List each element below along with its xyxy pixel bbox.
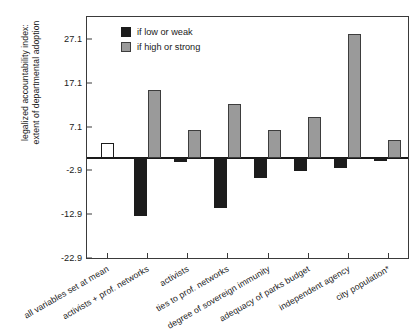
legend-label-high-strong: if high or strong [137, 42, 200, 52]
bar-low-weak-7 [374, 158, 387, 161]
legend-swatch-high-strong [121, 42, 131, 52]
y-tick-mark [87, 258, 92, 259]
y-tick-mark [87, 214, 92, 215]
y-tick-label: 27.1 [64, 34, 87, 44]
y-tick-label: -2.9 [66, 165, 87, 175]
x-tick-mark [107, 253, 108, 258]
x-tick-mark [388, 253, 389, 258]
bar-high-strong-7 [388, 140, 401, 158]
x-tick-mark [227, 253, 228, 258]
y-tick-mark [87, 126, 92, 127]
bar-high-strong-2 [188, 130, 201, 158]
y-tick-mark [87, 38, 92, 39]
bar-high-strong-6 [348, 34, 361, 158]
x-tick-mark [147, 253, 148, 258]
bar-high-strong-3 [228, 104, 241, 158]
x-tick-mark [268, 253, 269, 258]
y-tick-mark [87, 170, 92, 171]
y-tick-mark [87, 82, 92, 83]
x-tick-mark [308, 253, 309, 258]
legend-label-low-weak: if low or weak [137, 27, 193, 37]
bar-high-strong-4 [268, 130, 281, 158]
bar-baseline-0 [101, 143, 114, 158]
chart-legend: if low or weak if high or strong [121, 25, 200, 55]
y-tick-label: -12.9 [61, 209, 87, 219]
bar-high-strong-1 [148, 90, 161, 158]
bar-low-weak-3 [214, 158, 227, 208]
bar-low-weak-2 [174, 158, 187, 163]
legend-swatch-low-weak [121, 27, 131, 37]
bar-low-weak-5 [294, 158, 307, 171]
bar-low-weak-4 [254, 158, 267, 178]
x-tick-mark [348, 253, 349, 258]
y-tick-label: 7.1 [69, 122, 87, 132]
bar-low-weak-1 [134, 158, 147, 217]
bar-chart-figure: legalized accountability index: extent o… [0, 0, 417, 336]
y-tick-label: 17.1 [64, 78, 87, 88]
bar-high-strong-5 [308, 117, 321, 158]
bar-low-weak-6 [334, 158, 347, 168]
x-tick-mark [187, 253, 188, 258]
plot-area: 27.117.17.1-2.9-12.9-22.9 if low or weak… [86, 16, 409, 259]
y-tick-label: -22.9 [61, 253, 87, 263]
legend-item: if high or strong [121, 40, 200, 53]
legend-item: if low or weak [121, 25, 200, 38]
y-axis-label: legalized accountability index: extent o… [20, 0, 41, 183]
